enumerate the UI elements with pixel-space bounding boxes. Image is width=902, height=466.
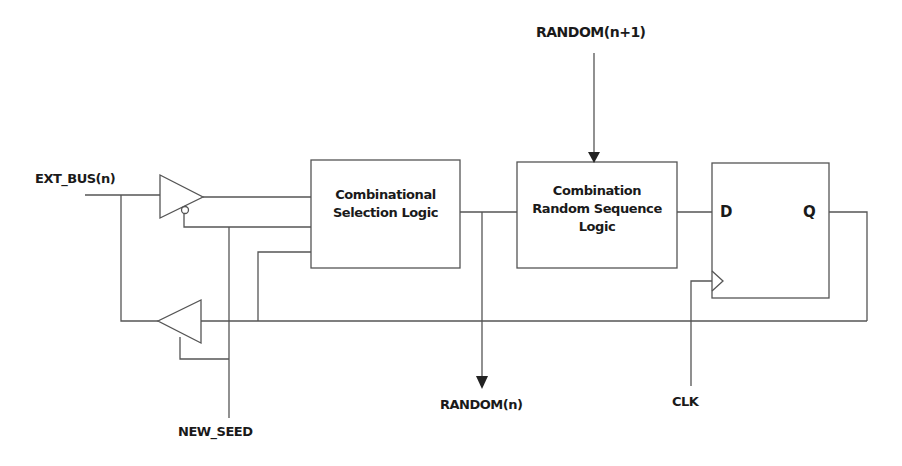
q-output-wire [829, 212, 867, 321]
random-out-label: RANDOM(n) [440, 397, 522, 412]
random-next-label: RANDOM(n+1) [536, 24, 646, 40]
inverted-enable-bubble-icon [182, 207, 189, 214]
new-seed-label: NEW_SEED [178, 424, 253, 439]
selection-logic-line2: Selection Logic [311, 204, 460, 222]
feedback-enable-wire [180, 337, 229, 359]
feedback-to-selection-wire [258, 252, 311, 321]
selection-logic-line1: Combinational [311, 186, 460, 204]
random-sequence-line3: Logic [517, 218, 677, 236]
clk-label: CLK [672, 394, 698, 409]
selection-logic-label: Combinational Selection Logic [311, 186, 460, 222]
ext-bus-branch-wire [121, 195, 158, 321]
random-sequence-line2: Random Sequence [517, 200, 677, 218]
flip-flop-d-label: D [720, 203, 732, 221]
seed-enable-wire [184, 214, 311, 227]
random-sequence-logic-label: Combination Random Sequence Logic [517, 182, 677, 236]
d-flip-flop-block [712, 163, 829, 298]
feedback-buffer-icon [158, 300, 201, 343]
random-out-arrow-icon [476, 376, 488, 389]
ext-bus-label: EXT_BUS(n) [35, 171, 115, 186]
clk-wire [691, 281, 712, 386]
random-sequence-line1: Combination [517, 182, 677, 200]
flip-flop-q-label: Q [803, 203, 815, 221]
